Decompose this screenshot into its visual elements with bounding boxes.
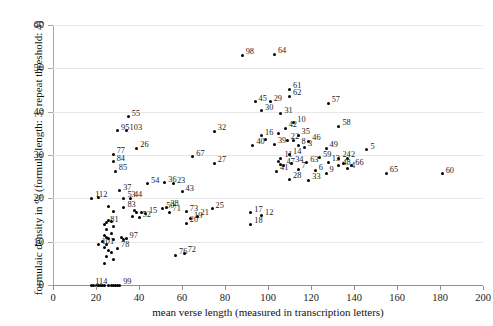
data-point-41	[275, 170, 278, 173]
data-point-85	[114, 170, 117, 173]
data-point	[103, 246, 106, 249]
x-tick-label-160: 160	[382, 292, 412, 303]
y-tick-label-60: 60	[4, 20, 44, 30]
y-tick-label-wrap: 50	[0, 63, 44, 73]
data-point-label-6: 6	[319, 164, 323, 172]
data-point-72	[183, 252, 186, 255]
data-point-label-84: 84	[117, 155, 125, 163]
data-point-label-85: 85	[119, 164, 127, 172]
gridline-y-10	[53, 242, 483, 243]
data-point-11	[279, 157, 282, 160]
data-point-label-46: 46	[312, 134, 320, 142]
data-point-83	[122, 206, 125, 209]
data-point	[107, 205, 110, 208]
y-tick-label-wrap: 0	[0, 280, 44, 290]
data-point-60	[441, 172, 444, 175]
x-tick-label-20: 20	[81, 292, 111, 303]
y-tick-label-0: 0	[4, 280, 44, 290]
data-point	[112, 210, 115, 213]
x-tick-label-40: 40	[124, 292, 154, 303]
x-tick-mark-140	[354, 286, 355, 290]
data-point-label-5: 5	[370, 143, 374, 151]
data-point-59	[318, 156, 321, 159]
x-tick-label-0: 0	[38, 292, 68, 303]
x-tick-mark-180	[440, 286, 441, 290]
data-point-58	[337, 125, 340, 128]
data-point-39	[273, 143, 276, 146]
data-point-17	[249, 211, 252, 214]
data-point-13	[327, 161, 330, 164]
data-point-27	[213, 162, 216, 165]
data-point-label-52: 52	[143, 211, 151, 219]
data-point-label-98: 98	[246, 48, 254, 56]
data-point	[140, 211, 143, 214]
x-tick-label-180: 180	[425, 292, 455, 303]
data-point-71	[168, 211, 171, 214]
data-point-label-31: 31	[284, 107, 292, 115]
data-point-20	[185, 222, 188, 225]
data-point-52	[138, 216, 141, 219]
data-point-57	[327, 102, 330, 105]
x-tick-mark-0	[53, 286, 54, 290]
scatter-plot-figure: 9864616245295730315510589510332421635224…	[0, 0, 493, 326]
data-point	[110, 251, 113, 254]
data-point-84	[112, 160, 115, 163]
data-point-42	[284, 127, 287, 130]
data-point-label-45: 45	[259, 95, 267, 103]
data-point-label-33: 33	[312, 173, 320, 181]
y-tick-label-30: 30	[4, 150, 44, 160]
data-point-77	[112, 153, 115, 156]
data-point	[112, 238, 115, 241]
gridline-y-60	[53, 25, 483, 26]
data-point	[103, 284, 106, 287]
data-point-label-13: 13	[332, 155, 340, 163]
data-point-label-4: 4	[351, 162, 355, 170]
data-point	[97, 196, 100, 199]
data-point-label-9: 9	[330, 166, 334, 174]
data-point-label-49: 49	[330, 141, 338, 149]
x-axis-title: mean verse length (measured in transcrip…	[53, 306, 483, 318]
data-point-label-20: 20	[190, 216, 198, 224]
data-point-label-27: 27	[218, 156, 226, 164]
x-tick-label-60: 60	[167, 292, 197, 303]
data-point-48	[337, 164, 340, 167]
data-point-3	[303, 146, 306, 149]
data-point-label-10: 10	[297, 116, 305, 124]
y-tick-label-wrap: 40	[0, 107, 44, 117]
data-point	[264, 138, 267, 141]
data-point-label-44: 44	[134, 191, 142, 199]
y-tick-label-wrap: 60	[0, 20, 44, 30]
data-point-40	[251, 144, 254, 147]
data-point-label-7: 7	[302, 162, 306, 170]
data-point-label-12: 12	[265, 209, 273, 217]
data-point-98	[241, 54, 244, 57]
data-point-label-55: 55	[132, 110, 140, 118]
data-point	[112, 225, 115, 228]
data-point-label-103: 103	[130, 124, 142, 132]
data-point	[105, 255, 108, 258]
data-point-label-3: 3	[308, 140, 312, 148]
data-point-label-64: 64	[278, 47, 286, 55]
x-tick-label-120: 120	[296, 292, 326, 303]
data-point-label-72: 72	[188, 246, 196, 254]
data-point-label-63: 63	[310, 156, 318, 164]
y-tick-label-40: 40	[4, 107, 44, 117]
data-point-label-29: 29	[274, 95, 282, 103]
data-point-4	[346, 167, 349, 170]
data-point-64	[273, 53, 276, 56]
data-point	[116, 284, 119, 287]
data-point-54	[146, 182, 149, 185]
x-tick-label-100: 100	[253, 292, 283, 303]
data-point-label-83: 83	[127, 201, 135, 209]
data-point-label-23: 23	[177, 177, 185, 185]
data-point-23	[172, 182, 175, 185]
y-tick-label-wrap: 20	[0, 193, 44, 203]
data-point-label-62: 62	[293, 89, 301, 97]
data-point	[110, 232, 113, 235]
data-point-95	[116, 129, 119, 132]
data-point-65	[385, 172, 388, 175]
data-point-label-42: 42	[289, 121, 297, 129]
x-tick-mark-20	[96, 286, 97, 290]
y-tick-mark-10	[48, 242, 53, 243]
x-tick-label-80: 80	[210, 292, 240, 303]
